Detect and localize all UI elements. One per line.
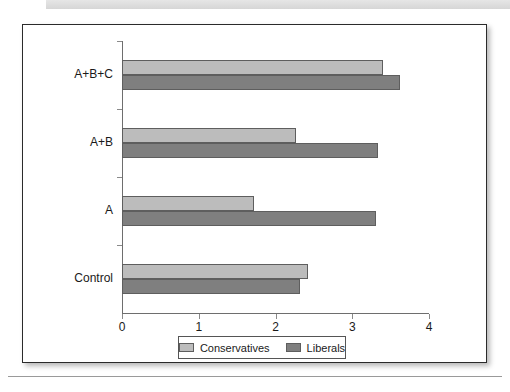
chart-plot-area: 01234A+B+CA+BAControl: [122, 41, 429, 313]
bar-a-b-liberals: [122, 143, 378, 158]
bar-control-liberals: [122, 279, 300, 294]
legend-item-liberals: Liberals: [286, 342, 346, 354]
y-axis-category-label: Control: [23, 271, 113, 285]
bar-a-conservatives: [122, 196, 254, 211]
y-axis-category-label: A+B+C: [23, 67, 113, 81]
bar-a-b-conservatives: [122, 128, 296, 143]
y-axis-tick: [117, 109, 122, 110]
x-axis-tick-label: 1: [184, 320, 214, 334]
x-axis-tick-label: 4: [414, 320, 444, 334]
x-axis-tick-label: 0: [107, 320, 137, 334]
x-axis-tick: [122, 314, 123, 319]
x-axis-tick: [199, 314, 200, 319]
legend-label: Conservatives: [200, 342, 270, 354]
chart-figure-frame: 01234A+B+CA+BAControl: [22, 24, 487, 363]
bar-a-b-c-liberals: [122, 75, 400, 90]
legend-label: Liberals: [307, 342, 346, 354]
y-axis-category-label: A+B: [23, 135, 113, 149]
y-axis-tick: [117, 41, 122, 42]
x-axis-tick-label: 3: [337, 320, 367, 334]
footer-divider: [8, 376, 502, 377]
x-axis-tick: [352, 314, 353, 319]
y-axis-category-label: A: [23, 203, 113, 217]
page-header-band-gap: [0, 0, 46, 9]
y-axis-tick: [117, 177, 122, 178]
y-axis-tick: [117, 245, 122, 246]
legend-swatch-icon: [179, 343, 194, 352]
bar-a-b-c-conservatives: [122, 60, 383, 75]
chart-legend: ConservativesLiberals: [178, 336, 346, 359]
bar-control-conservatives: [122, 264, 308, 279]
x-axis-tick: [276, 314, 277, 319]
x-axis-tick: [429, 314, 430, 319]
x-axis-tick-label: 2: [261, 320, 291, 334]
legend-item-conservatives: Conservatives: [179, 342, 270, 354]
legend-swatch-icon: [286, 343, 301, 352]
bar-a-liberals: [122, 211, 376, 226]
page-header-band: [44, 0, 510, 9]
